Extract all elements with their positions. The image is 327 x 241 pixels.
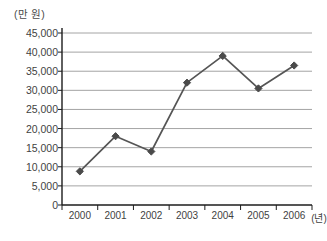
y-axis-tick-label: 20,000 — [0, 123, 58, 135]
y-axis-tick-label: 45,000 — [0, 27, 58, 39]
x-axis-tick-label: 2000 — [69, 210, 91, 221]
y-axis-tick-label: 0 — [0, 199, 58, 211]
y-axis-tick-label: 25,000 — [0, 103, 58, 115]
x-axis-tick-label: 2003 — [176, 210, 198, 221]
y-axis-tick-label: 35,000 — [0, 65, 58, 77]
y-axis-tick-label: 30,000 — [0, 84, 58, 96]
y-axis-tick-label: 10,000 — [0, 161, 58, 173]
plot-area — [62, 33, 312, 205]
y-axis-tick-labels: 45,00040,00035,00030,00025,00020,00015,0… — [0, 0, 58, 241]
y-axis-tick-label: 5,000 — [0, 180, 58, 192]
y-axis-tick-label: 15,000 — [0, 142, 58, 154]
data-series — [62, 33, 312, 205]
x-axis-tick-label: 2001 — [104, 210, 126, 221]
x-axis-tick-label: 2006 — [283, 210, 305, 221]
x-axis-tick-label: 2002 — [140, 210, 162, 221]
x-axis-tick-label: 2005 — [247, 210, 269, 221]
y-axis-tick-label: 40,000 — [0, 46, 58, 58]
series-line — [80, 56, 294, 171]
x-axis-tick-label: 2004 — [212, 210, 234, 221]
x-axis-tick-labels: 2000200120022003200420052006(년) — [62, 210, 326, 230]
data-point-marker — [148, 148, 155, 155]
x-axis-unit-label: (년) — [311, 210, 327, 225]
